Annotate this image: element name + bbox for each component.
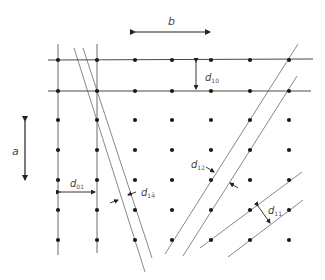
lattice-point [287, 238, 291, 242]
a-label: a [12, 145, 19, 158]
lattice-point [248, 118, 252, 122]
lattice-point [56, 178, 60, 182]
lattice-point [95, 178, 99, 182]
d14bar-label: d14̄ [141, 187, 155, 199]
lattice-point [287, 208, 291, 212]
lattice-point [170, 148, 174, 152]
d10-label: d10 [205, 72, 219, 84]
lattice-point [287, 58, 291, 62]
lattice-point [133, 148, 137, 152]
lattice-point [209, 58, 213, 62]
lattice-point [133, 238, 137, 242]
lattice-point [209, 89, 213, 93]
lattice-point [248, 238, 252, 242]
planes-11 [200, 172, 303, 257]
lattice-point [248, 148, 252, 152]
lattice-point [133, 89, 137, 93]
lattice-point [95, 238, 99, 242]
d11-label: d11 [268, 205, 282, 217]
lattice-point [170, 208, 174, 212]
lattice-point [95, 148, 99, 152]
lattice-point [133, 208, 137, 212]
b-label: b [168, 15, 175, 28]
b-vector-arrow: b [135, 15, 210, 32]
planes-14bar [74, 48, 152, 272]
lattice-point [209, 178, 213, 182]
lattice-point [56, 118, 60, 122]
lattice-point [248, 178, 252, 182]
lattice-point [56, 58, 60, 62]
lattice-point [56, 208, 60, 212]
lattice-point [133, 118, 137, 122]
d14bar-spacing-arrow: d14̄ [110, 187, 155, 203]
d11-spacing-arrow: d11 [258, 205, 282, 223]
lattice-point [170, 89, 174, 93]
lattice-point [133, 58, 137, 62]
d01-label: d01 [70, 178, 84, 190]
lattice-point [287, 148, 291, 152]
lattice-point [170, 118, 174, 122]
lattice-point [248, 89, 252, 93]
lattice-point [170, 178, 174, 182]
lattice-point [56, 89, 60, 93]
d12-spacing-arrow: d12 [191, 159, 238, 188]
lattice-point [287, 118, 291, 122]
d01-spacing-arrow: d01 [60, 178, 95, 192]
d10-spacing-arrow: d10 [196, 62, 219, 89]
lattice-point [95, 89, 99, 93]
lattice-point [95, 208, 99, 212]
lattice-point [287, 89, 291, 93]
lattice-point [56, 238, 60, 242]
planes-10 [48, 59, 313, 91]
lattice-point [209, 208, 213, 212]
lattice-point [170, 58, 174, 62]
lattice-point [95, 118, 99, 122]
lattice-point [209, 148, 213, 152]
planes-01 [58, 44, 97, 255]
lattice-diagram: b a d10 d01 [0, 0, 325, 280]
lattice-point [209, 238, 213, 242]
d12-label: d12 [191, 159, 205, 171]
lattice-point [133, 178, 137, 182]
lattice-point [287, 178, 291, 182]
lattice-point [248, 208, 252, 212]
lattice-point [56, 148, 60, 152]
lattice-point [95, 58, 99, 62]
lattice-point [170, 238, 174, 242]
a-vector-arrow: a [12, 121, 25, 180]
lattice-point [209, 118, 213, 122]
lattice-point [248, 58, 252, 62]
lattice-points [56, 58, 291, 242]
